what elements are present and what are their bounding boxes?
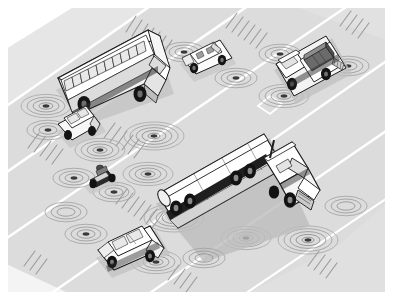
- highway-scene: [8, 8, 385, 292]
- illustration-frame: [8, 8, 385, 292]
- illustration-stage: [0, 0, 393, 300]
